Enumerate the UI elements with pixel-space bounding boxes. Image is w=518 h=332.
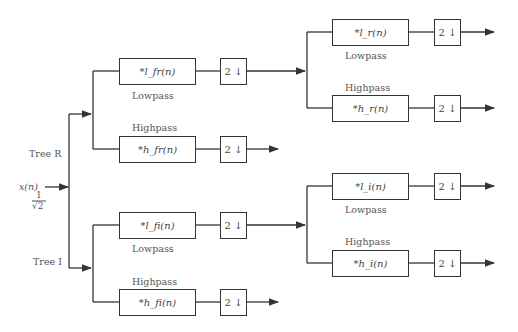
downsample-hr: 2 ↓ [434,95,461,122]
filter-hfr: *h_fr(n) [119,136,196,163]
downsample-lr: 2 ↓ [434,19,461,46]
highpass-label-r2: Highpass [345,82,390,93]
highpass-label-r1: Highpass [132,122,177,133]
lowpass-label-r2: Lowpass [345,50,387,61]
filter-hi: *h_i(n) [332,250,409,277]
tree-i-label: Tree I [33,256,62,267]
filter-lfr: *l_fr(n) [119,58,196,85]
lowpass-label-i2: Lowpass [345,204,387,215]
filter-lfi: *l_fi(n) [119,212,196,239]
downsample-hfr: 2 ↓ [220,136,247,163]
lowpass-label-i1: Lowpass [132,243,174,254]
lowpass-label-r1: Lowpass [132,90,174,101]
downsample-lfi: 2 ↓ [220,212,247,239]
filter-li: *l_i(n) [332,173,409,200]
tree-r-label: Tree R [29,148,61,159]
downsample-lfr: 2 ↓ [220,58,247,85]
highpass-label-i1: Highpass [132,276,177,287]
highpass-label-i2: Highpass [345,236,390,247]
downsample-hfi: 2 ↓ [220,289,247,316]
filter-hfi: *h_fi(n) [119,289,196,316]
connector-lines [0,0,518,332]
downsample-li: 2 ↓ [434,173,461,200]
filter-lr: *l_r(n) [332,19,409,46]
scale-denominator: √2 [32,201,43,211]
downsample-hi: 2 ↓ [434,250,461,277]
filter-hr: *h_r(n) [332,95,409,122]
scale-numerator: 1 [36,190,42,200]
